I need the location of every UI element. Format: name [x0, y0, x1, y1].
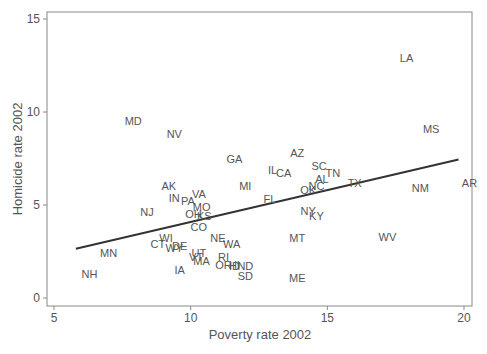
point-label-sd: SD	[238, 270, 253, 282]
point-label-wa: WA	[223, 238, 241, 250]
y-tick-label: 5	[33, 198, 40, 212]
point-label-tx: TX	[348, 177, 363, 189]
point-label-ia: IA	[175, 264, 186, 276]
point-label-mi: MI	[239, 180, 251, 192]
point-label-ma: MA	[193, 255, 210, 267]
point-label-wy: WY	[165, 242, 183, 254]
point-label-nj: NJ	[140, 206, 153, 218]
y-tick-label: 10	[27, 105, 41, 119]
point-label-ga: GA	[226, 153, 243, 165]
point-label-md: MD	[125, 115, 142, 127]
point-label-az: AZ	[290, 147, 304, 159]
state-labels: LAMDMSNVAZGASCILCATNALTXARMINCAKNMOKVAIN…	[82, 52, 478, 283]
x-tick-label: 20	[457, 311, 471, 325]
point-label-mt: MT	[289, 232, 305, 244]
point-label-fl: FL	[264, 193, 277, 205]
x-axis: 5101520	[51, 306, 471, 325]
x-axis-label: Poverty rate 2002	[209, 327, 312, 342]
point-label-nv: NV	[167, 128, 183, 140]
point-label-ky: KY	[309, 210, 324, 222]
point-label-mn: MN	[100, 247, 117, 259]
y-tick-label: 15	[27, 12, 41, 26]
x-tick-label: 15	[321, 311, 335, 325]
point-label-ms: MS	[423, 123, 440, 135]
point-label-ar: AR	[462, 177, 477, 189]
y-axis: 051015	[27, 12, 47, 305]
point-label-co: CO	[191, 221, 208, 233]
x-tick-label: 10	[184, 311, 198, 325]
y-tick-label: 0	[33, 291, 40, 305]
point-label-in: IN	[169, 192, 180, 204]
point-label-nm: NM	[412, 182, 429, 194]
y-axis-label: Homicide rate 2002	[10, 103, 25, 216]
point-label-ct: CT	[151, 238, 166, 250]
x-tick-label: 5	[51, 311, 58, 325]
scatter-chart: 051015 5101520 Homicide rate 2002 Povert…	[0, 0, 487, 354]
point-label-ca: CA	[276, 167, 292, 179]
point-label-me: ME	[289, 272, 306, 284]
point-label-la: LA	[400, 52, 414, 64]
point-label-ok: OK	[300, 184, 317, 196]
point-label-nh: NH	[82, 268, 98, 280]
point-label-wv: WV	[379, 231, 397, 243]
